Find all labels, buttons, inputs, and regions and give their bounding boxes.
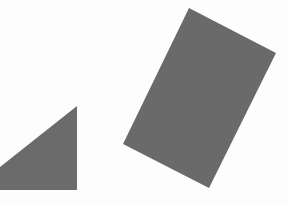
triangle-shape bbox=[0, 106, 77, 190]
diagram-canvas bbox=[0, 0, 287, 205]
shapes-svg bbox=[0, 0, 287, 205]
rotated-rectangle-shape bbox=[123, 8, 276, 188]
